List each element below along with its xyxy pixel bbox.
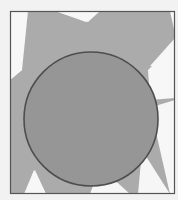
sun-disc: [24, 52, 158, 186]
sun-figure: [0, 0, 178, 200]
sun-icon: [0, 0, 178, 200]
